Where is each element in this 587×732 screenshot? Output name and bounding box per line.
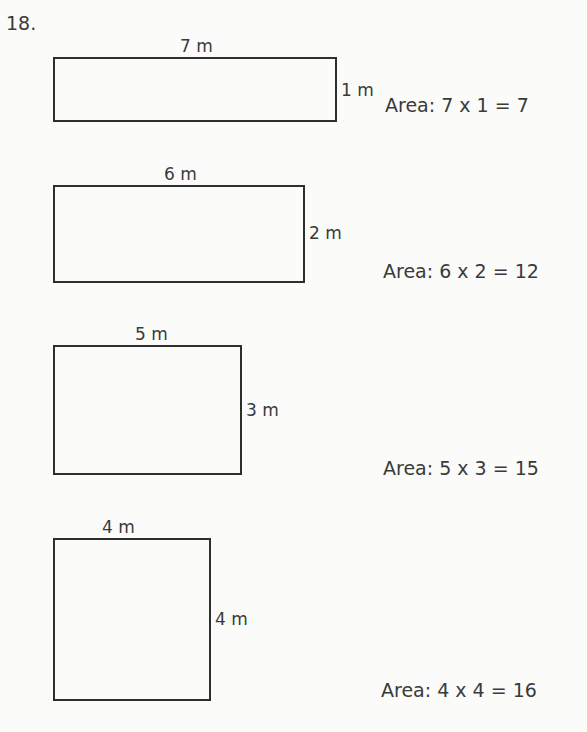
height-label: 1 m <box>341 82 374 99</box>
height-label: 2 m <box>309 225 342 242</box>
rectangle <box>53 185 305 283</box>
area-answer: Area: 6 x 2 = 12 <box>383 262 539 281</box>
width-label: 4 m <box>102 519 135 536</box>
problem-number: 18. <box>6 12 36 34</box>
width-label: 6 m <box>164 166 197 183</box>
height-label: 4 m <box>215 611 248 628</box>
area-answer: Area: 7 x 1 = 7 <box>385 96 529 115</box>
rectangle <box>53 57 337 122</box>
height-label: 3 m <box>246 402 279 419</box>
area-answer: Area: 5 x 3 = 15 <box>383 459 539 478</box>
rectangle <box>53 538 211 701</box>
area-answer: Area: 4 x 4 = 16 <box>381 681 537 700</box>
rectangle <box>53 345 242 475</box>
width-label: 7 m <box>180 38 213 55</box>
width-label: 5 m <box>135 326 168 343</box>
